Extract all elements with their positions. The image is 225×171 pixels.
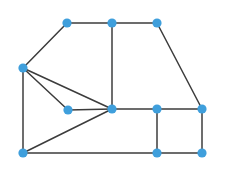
graph-node-n3 [152,18,161,27]
graph-figure [0,0,225,171]
graph-node-n11 [197,148,206,157]
graph-canvas [0,0,225,171]
graph-node-n5 [63,105,72,114]
graph-node-n10 [152,148,161,157]
graph-node-n9 [18,148,27,157]
graph-node-n8 [197,104,206,113]
graph-node-n7 [152,104,161,113]
graph-node-n1 [62,18,71,27]
graph-node-n2 [107,18,116,27]
graph-node-n6 [107,104,116,113]
graph-edge-n5-n6 [68,109,112,110]
graph-node-n4 [18,63,27,72]
